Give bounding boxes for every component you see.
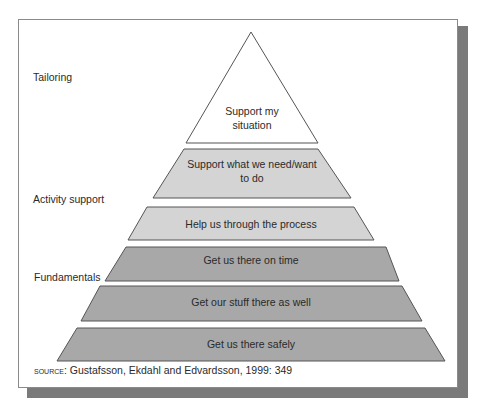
side-label-fundamentals: Fundamentals: [34, 271, 102, 283]
tier-label: Support what we need/want: [187, 158, 317, 170]
tier-label: Get our stuff there as well: [191, 296, 310, 308]
tier-label: Get us there safely: [207, 338, 296, 350]
pyramid-diagram: Support mysituationSupport what we need/…: [0, 0, 483, 416]
pyramid-tier-5: Get our stuff there as well: [81, 286, 422, 321]
side-label-tailoring: Tailoring: [33, 71, 73, 83]
source-citation: Source: Gustafsson, Ekdahl and Edvardsso…: [34, 364, 292, 376]
pyramid-tier-4: Get us there on time: [105, 247, 399, 281]
tier-label: situation: [232, 119, 271, 131]
pyramid-tier-3: Help us through the process: [128, 207, 374, 240]
pyramid-tier-1: Support mysituation: [186, 32, 318, 143]
tier-label: Help us through the process: [185, 218, 316, 230]
tier-label: Get us there on time: [203, 254, 298, 266]
side-label-activity-support: Activity support: [33, 193, 105, 205]
tier-label: to do: [240, 172, 264, 184]
pyramid-tier-6: Get us there safely: [57, 328, 445, 361]
pyramid-tier-2: Support what we need/wantto do: [153, 149, 351, 198]
tier-label: Support my: [225, 105, 279, 117]
source-prefix: Source: [34, 364, 64, 376]
source-text: : Gustafsson, Ekdahl and Edvardsson, 199…: [64, 364, 292, 376]
